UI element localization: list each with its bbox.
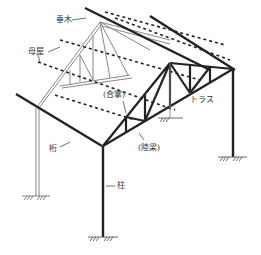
truss-diagram bbox=[0, 0, 261, 255]
label-truss: トラス bbox=[190, 96, 214, 104]
leader-lines bbox=[38, 18, 144, 186]
label-eave-beam: 桁 bbox=[49, 145, 57, 153]
label-purlin: 母屋 bbox=[28, 48, 44, 56]
label-tie-beam: (陸梁) bbox=[138, 144, 160, 152]
label-principal-rafter: (合掌) bbox=[103, 91, 125, 99]
label-column: 柱 bbox=[117, 182, 125, 190]
label-rafter: 垂木 bbox=[56, 16, 72, 24]
ground-hatch-back bbox=[22, 196, 50, 200]
front-truss bbox=[103, 63, 233, 146]
